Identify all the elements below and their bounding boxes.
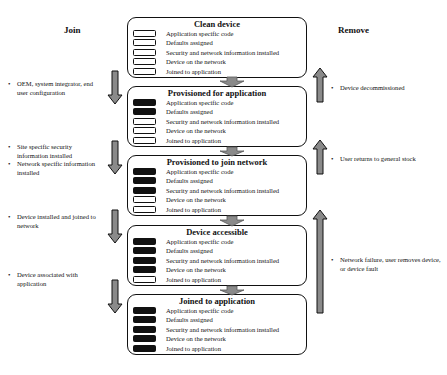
arrow-up-icon: [313, 210, 327, 313]
arrow-up-icon: [313, 140, 327, 174]
arrow-up-icon: [313, 68, 327, 102]
remove-arrows: [0, 0, 447, 375]
